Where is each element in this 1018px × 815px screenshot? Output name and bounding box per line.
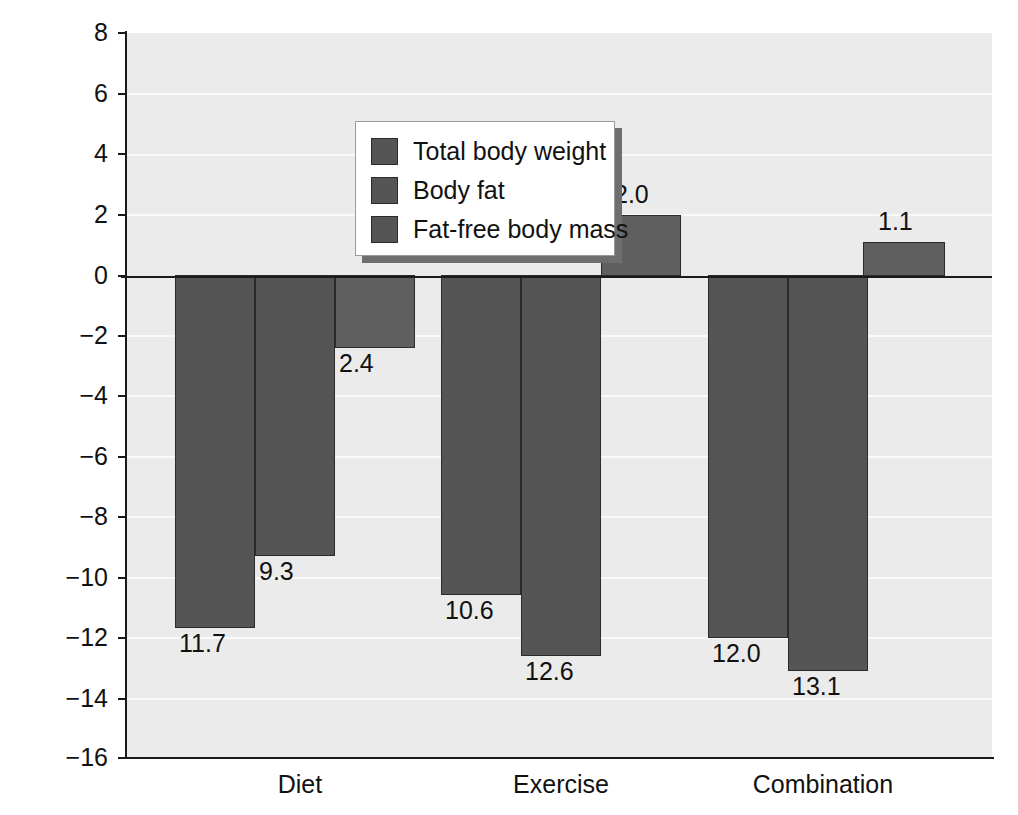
bar-combination-total-body-weight xyxy=(708,275,788,638)
y-tick-label: −8 xyxy=(20,502,108,531)
y-tick-mark xyxy=(118,516,127,518)
y-tick-label: −2 xyxy=(20,321,108,350)
y-tick-label: −16 xyxy=(20,743,108,772)
y-tick-mark xyxy=(118,153,127,155)
y-tick-mark xyxy=(118,637,127,639)
y-tick-mark xyxy=(118,456,127,458)
bar-combination-fat-free-body-mass xyxy=(863,242,945,276)
gridline-m14 xyxy=(127,698,992,700)
legend-swatch-icon xyxy=(371,216,398,243)
bar-diet-total-body-weight xyxy=(175,275,255,628)
legend-item-total-body-weight: Total body weight xyxy=(356,132,614,171)
y-tick-label: 8 xyxy=(20,18,108,47)
legend-label: Fat-free body mass xyxy=(413,215,628,244)
data-label-diet-body-fat: 9.3 xyxy=(259,557,294,586)
legend-label: Body fat xyxy=(413,176,505,205)
y-tick-label: 0 xyxy=(20,261,108,290)
legend-item-body-fat: Body fat xyxy=(356,171,614,210)
gridline-6 xyxy=(127,93,992,95)
y-tick-mark xyxy=(118,395,127,397)
legend: Total body weight Body fat Fat-free body… xyxy=(355,121,615,256)
bar-diet-body-fat xyxy=(255,275,335,556)
y-tick-label: −12 xyxy=(20,623,108,652)
x-axis-line xyxy=(125,757,994,759)
data-label-combination-body-fat: 13.1 xyxy=(792,672,841,701)
y-tick-mark xyxy=(118,577,127,579)
legend-swatch-icon xyxy=(371,177,398,204)
y-tick-mark xyxy=(118,335,127,337)
y-tick-mark xyxy=(118,698,127,700)
legend-item-fat-free-body-mass: Fat-free body mass xyxy=(356,210,614,249)
bar-exercise-total-body-weight xyxy=(441,275,521,595)
data-label-exercise-body-fat: 12.6 xyxy=(525,657,574,686)
y-tick-label: 2 xyxy=(20,200,108,229)
y-tick-label: −14 xyxy=(20,684,108,713)
y-tick-mark xyxy=(118,32,127,34)
y-tick-label: 4 xyxy=(20,139,108,168)
plot-area: 11.7 9.3 2.4 10.6 12.6 2.0 12.0 13.1 1.1… xyxy=(127,33,992,757)
zero-axis-line xyxy=(121,276,992,278)
y-tick-label: 6 xyxy=(20,79,108,108)
data-label-combination-fat-free-body-mass: 1.1 xyxy=(878,207,913,236)
data-label-combination-total-body-weight: 12.0 xyxy=(712,639,761,668)
y-tick-mark xyxy=(118,93,127,95)
y-tick-mark xyxy=(118,757,127,759)
x-tick-label-diet: Diet xyxy=(215,770,385,799)
bar-diet-fat-free-body-mass xyxy=(335,275,415,348)
data-label-exercise-fat-free-body-mass: 2.0 xyxy=(614,180,649,209)
bar-combination-body-fat xyxy=(788,275,868,671)
data-label-diet-total-body-weight: 11.7 xyxy=(179,629,226,658)
legend-label: Total body weight xyxy=(413,137,606,166)
data-label-diet-fat-free-body-mass: 2.4 xyxy=(339,349,374,378)
bar-exercise-body-fat xyxy=(521,275,601,656)
y-tick-label: −4 xyxy=(20,381,108,410)
y-tick-label: −10 xyxy=(20,563,108,592)
y-tick-label: −6 xyxy=(20,442,108,471)
x-tick-label-combination: Combination xyxy=(723,770,923,799)
y-tick-mark xyxy=(118,275,127,277)
legend-swatch-icon xyxy=(371,138,398,165)
x-tick-label-exercise: Exercise xyxy=(476,770,646,799)
y-tick-mark xyxy=(118,214,127,216)
data-label-exercise-total-body-weight: 10.6 xyxy=(445,596,494,625)
bar-chart: 11.7 9.3 2.4 10.6 12.6 2.0 12.0 13.1 1.1… xyxy=(0,0,1018,815)
